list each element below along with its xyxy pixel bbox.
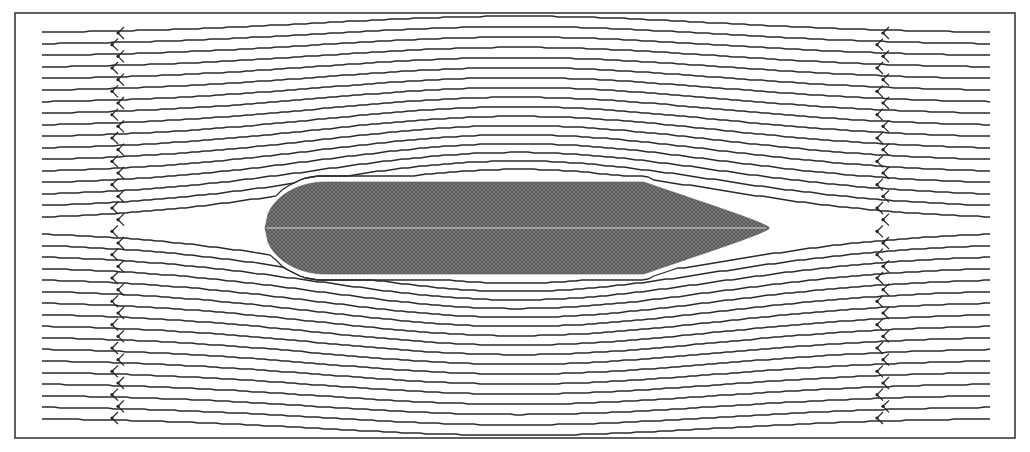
streamline bbox=[42, 78, 990, 102]
streamline bbox=[42, 68, 990, 90]
streamline bbox=[42, 349, 990, 374]
streamline-figure bbox=[0, 0, 1030, 452]
streamline bbox=[42, 338, 990, 364]
streamline bbox=[42, 419, 990, 435]
streamline bbox=[42, 269, 990, 309]
streamline bbox=[42, 97, 990, 125]
streamline bbox=[42, 144, 990, 182]
streamline bbox=[42, 303, 990, 336]
streamline bbox=[42, 107, 990, 136]
streamline bbox=[42, 16, 990, 32]
figure-caption bbox=[80, 446, 960, 452]
streamline bbox=[42, 396, 990, 415]
streamline bbox=[42, 88, 990, 113]
streamline bbox=[42, 47, 990, 67]
streamline bbox=[42, 315, 990, 345]
streamline bbox=[42, 326, 990, 355]
streamline bbox=[42, 116, 990, 148]
